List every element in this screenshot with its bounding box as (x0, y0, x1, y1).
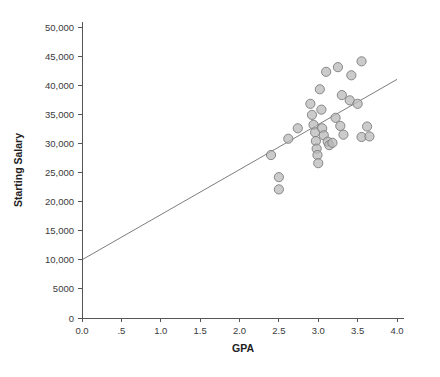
scatter-point (293, 124, 302, 133)
scatter-point (322, 67, 331, 76)
scatter-point (328, 138, 337, 147)
x-tick-label: 3.0 (312, 325, 325, 336)
x-tick-label: 0.0 (75, 325, 88, 336)
scatter-point (336, 121, 345, 130)
y-tick-label: 15,000 (45, 225, 74, 236)
scatter-point (347, 71, 356, 80)
y-tick-label: 20,000 (45, 196, 74, 207)
scatter-point (365, 132, 374, 141)
scatter-point (266, 150, 275, 159)
chart-canvas: 0500010,00015,00020,00025,00030,00035,00… (0, 0, 440, 377)
scatter-point (337, 90, 346, 99)
scatter-point (333, 63, 342, 72)
scatter-markers (266, 57, 374, 194)
x-tick-label: 1.0 (154, 325, 167, 336)
scatter-point (307, 110, 316, 119)
y-tick-label: 40,000 (45, 80, 74, 91)
x-tick-label: 2.0 (233, 325, 246, 336)
x-tick-label: 4.0 (390, 325, 403, 336)
scatter-point (284, 134, 293, 143)
x-tick-label: 2.5 (272, 325, 285, 336)
scatter-point (274, 185, 283, 194)
x-axis-tick-labels: 0.0.51.01.52.02.53.03.54.0 (75, 325, 403, 336)
y-tick-label: 0 (69, 313, 74, 324)
scatter-point (331, 113, 340, 122)
y-tick-label: 50,000 (45, 22, 74, 33)
scatter-point (357, 57, 366, 66)
y-tick-label: 5000 (53, 283, 74, 294)
y-tick-label: 30,000 (45, 138, 74, 149)
scatter-point (274, 173, 283, 182)
y-axis-title: Starting Salary (12, 133, 24, 207)
regression-line (82, 79, 397, 259)
scatter-point (317, 105, 326, 114)
y-tick-label: 25,000 (45, 167, 74, 178)
x-tick-label: 3.5 (351, 325, 364, 336)
scatter-point (306, 99, 315, 108)
scatter-point (315, 85, 324, 94)
scatter-plot-figure: 0500010,00015,00020,00025,00030,00035,00… (0, 0, 440, 377)
y-tick-label: 35,000 (45, 109, 74, 120)
x-tick-label: 1.5 (194, 325, 207, 336)
scatter-point (339, 130, 348, 139)
y-tick-label: 45,000 (45, 51, 74, 62)
y-axis-tick-labels: 0500010,00015,00020,00025,00030,00035,00… (45, 22, 74, 324)
y-tick-label: 10,000 (45, 254, 74, 265)
x-tick-label: .5 (117, 325, 125, 336)
scatter-point (362, 122, 371, 131)
scatter-point (353, 99, 362, 108)
x-axis-title: GPA (232, 342, 254, 354)
scatter-point (314, 159, 323, 168)
